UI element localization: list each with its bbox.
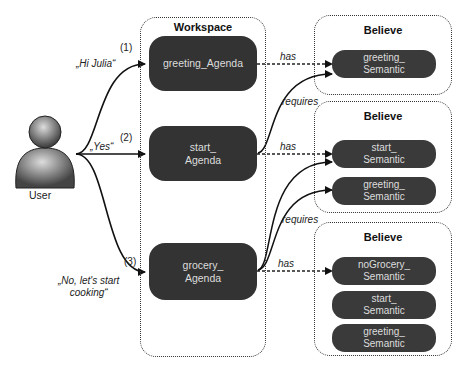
workspace-title: Workspace (141, 21, 265, 33)
start-agenda-node[interactable]: start_ Agenda (149, 126, 257, 181)
start-semantic-node[interactable]: start_ Semantic (332, 140, 436, 168)
greeting-agenda-node[interactable]: greeting_Agenda (149, 36, 257, 91)
has-label-3: has (278, 258, 294, 270)
utterance-1: „Hi Julia“ (76, 58, 115, 70)
greeting-semantic-node[interactable]: greeting_ Semantic (332, 177, 436, 205)
greeting-semantic-node[interactable]: greeting_ Semantic (332, 50, 436, 78)
requires-label-1: requires (282, 96, 318, 108)
believe-title-1: Believe (315, 24, 451, 36)
has-label-1: has (280, 51, 296, 63)
step-number-1: (1) (120, 42, 132, 53)
user-label: User (29, 189, 51, 201)
believe-title-3: Believe (315, 231, 451, 243)
utterance-3: „No, let's start cooking“ (58, 275, 119, 299)
nogrocery-semantic-node[interactable]: noGrocery_ Semantic (332, 257, 436, 285)
grocery-agenda-node[interactable]: grocery_ Agenda (149, 243, 257, 300)
user-icon (10, 110, 80, 190)
requires-label-2: requires (282, 214, 318, 226)
step-number-3: (3) (124, 256, 136, 267)
has-label-2: has (280, 141, 296, 153)
step-number-2: (2) (120, 132, 132, 143)
greeting-semantic-node[interactable]: greeting_ Semantic (332, 324, 436, 352)
start-semantic-node[interactable]: start_ Semantic (332, 291, 436, 319)
believe-title-2: Believe (315, 110, 451, 122)
utterance-2: „Yes“ (90, 141, 113, 153)
